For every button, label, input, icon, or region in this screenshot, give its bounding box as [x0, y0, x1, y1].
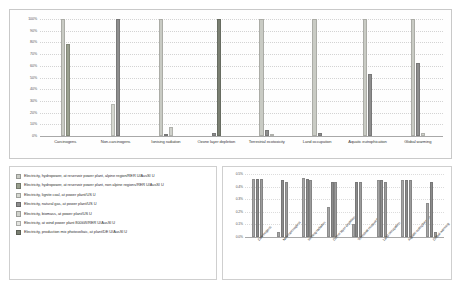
- legend-item[interactable]: Electricity, biomass, at power plant/US …: [16, 211, 212, 217]
- legend-item[interactable]: Electricity, production mix photovoltaic…: [16, 229, 212, 235]
- bar: [409, 180, 412, 237]
- legend-item-label: Electricity, biomass, at power plant/US …: [24, 211, 92, 216]
- y-axis-tick-label: 0.1%: [236, 222, 243, 226]
- legend-item[interactable]: Electricity, at wind power plant 800kW/R…: [16, 220, 212, 226]
- bar-group: Non-carcinogens: [270, 174, 295, 237]
- bar: [355, 182, 358, 237]
- bar-group: Land occupation: [369, 174, 394, 237]
- inset-chart-panel: 0.5%0.4%0.3%0.2%0.1%0.0% CarcinogensNon-…: [222, 166, 452, 280]
- bar: [334, 182, 337, 237]
- y-axis-tick-label: 0.3%: [236, 197, 243, 201]
- bar: [169, 127, 173, 136]
- legend-item-label: Electricity, natural gas, at power plant…: [24, 201, 97, 206]
- bar: [260, 179, 263, 237]
- bar: [363, 19, 367, 136]
- legend-item-label: Electricity, lignite coal, at power plan…: [24, 192, 96, 197]
- legend-swatch-icon: [16, 174, 21, 179]
- bar: [270, 134, 274, 136]
- bar: [259, 19, 263, 136]
- bar: [302, 178, 305, 237]
- bar: [111, 104, 115, 136]
- bar: [61, 19, 65, 136]
- bar: [405, 180, 408, 237]
- bar-group: Ozone layer depletion: [191, 19, 241, 136]
- legend-item-label: Electricity, hydropower, at reservoir po…: [24, 182, 164, 187]
- bar: [306, 179, 309, 237]
- gridline: [40, 136, 443, 137]
- bar: [318, 133, 322, 137]
- bar-group: Terrestrial ecotoxicity: [242, 19, 292, 136]
- bar-group: Carcinogens: [40, 19, 90, 136]
- x-axis-tick-label: Carcinogens: [54, 139, 76, 144]
- bar: [327, 207, 330, 237]
- bar: [411, 19, 415, 136]
- bar: [368, 74, 372, 136]
- legend-item[interactable]: Electricity, hydropower, at reservoir po…: [16, 173, 212, 179]
- bar: [384, 182, 387, 237]
- main-bar-groups: CarcinogensNon-carcinogensIonising radia…: [40, 19, 443, 136]
- bar-group: Non-carcinogens: [90, 19, 140, 136]
- bar: [430, 182, 433, 237]
- bar: [401, 180, 404, 237]
- legend-item[interactable]: Electricity, hydropower, at reservoir po…: [16, 182, 212, 188]
- inset-bar-groups: CarcinogensNon-carcinogensIonising radia…: [245, 174, 444, 237]
- legend-item[interactable]: Electricity, lignite coal, at power plan…: [16, 192, 212, 198]
- legend-item-label: Electricity, at wind power plant 800kW/R…: [24, 220, 115, 225]
- y-axis-tick-label: 100%: [28, 17, 37, 21]
- y-axis-tick-label: 50%: [30, 76, 37, 80]
- bar: [331, 182, 334, 237]
- x-axis-tick-label: Land occupation: [303, 139, 332, 144]
- legend-swatch-icon: [16, 193, 21, 198]
- legend-swatch-icon: [16, 202, 21, 207]
- bar: [421, 133, 425, 137]
- bar: [256, 179, 259, 237]
- legend-list: Electricity, hydropower, at reservoir po…: [16, 173, 212, 235]
- x-axis-tick-label: Aquatic eutrophication: [348, 139, 386, 144]
- legend-item[interactable]: Electricity, natural gas, at power plant…: [16, 201, 212, 207]
- x-axis-tick-label: Terrestrial ecotoxicity: [249, 139, 285, 144]
- y-axis-tick-label: 0.5%: [236, 172, 243, 176]
- bar-group: Terrestrial ecotoxicity: [345, 174, 370, 237]
- y-axis-tick-label: 0.2%: [236, 210, 243, 214]
- x-axis-tick-label: Ionising radiation: [151, 139, 180, 144]
- legend-item-label: Electricity, production mix photovoltaic…: [24, 229, 127, 234]
- x-axis-tick-label: Non-carcinogens: [101, 139, 130, 144]
- bar: [312, 19, 316, 136]
- bar: [309, 180, 312, 237]
- bar: [212, 133, 216, 137]
- legend-item-label: Electricity, hydropower, at reservoir po…: [24, 173, 155, 178]
- y-axis-tick-label: 40%: [30, 87, 37, 91]
- bar-group: Aquatic eutrophication: [342, 19, 392, 136]
- y-axis-tick-label: 0.4%: [236, 185, 243, 189]
- y-axis-tick-label: 80%: [30, 40, 37, 44]
- bar-group: Ionising radiation: [141, 19, 191, 136]
- y-axis-tick-label: 0.0%: [236, 235, 243, 239]
- y-axis-tick-label: 20%: [30, 111, 37, 115]
- y-axis-tick-label: 10%: [30, 122, 37, 126]
- bar: [116, 19, 120, 136]
- bar: [359, 182, 362, 237]
- bar: [281, 180, 284, 237]
- bar: [164, 134, 168, 136]
- bar-group: Global warming: [419, 174, 444, 237]
- bar: [377, 180, 380, 237]
- y-axis-tick-label: 70%: [30, 52, 37, 56]
- bar: [159, 19, 163, 136]
- bar: [416, 63, 420, 136]
- bar: [426, 203, 429, 237]
- main-chart-panel: 100%90%80%70%60%50%40%30%20%10%0% Carcin…: [9, 9, 452, 159]
- bar-group: Ionising radiation: [295, 174, 320, 237]
- bar: [352, 224, 355, 237]
- bar-group: Aquatic eutrophication: [394, 174, 419, 237]
- y-axis-tick-label: 30%: [30, 99, 37, 103]
- bar-group: Land occupation: [292, 19, 342, 136]
- legend-swatch-icon: [16, 183, 21, 188]
- bar: [252, 179, 255, 237]
- main-plot-area: 100%90%80%70%60%50%40%30%20%10%0% Carcin…: [40, 19, 443, 136]
- legend-swatch-icon: [16, 221, 21, 226]
- gridline: [245, 237, 444, 238]
- bar: [285, 182, 288, 237]
- y-axis-tick-label: 90%: [30, 29, 37, 33]
- x-axis-tick-label: Ozone layer depletion: [197, 139, 235, 144]
- legend-swatch-icon: [16, 211, 21, 216]
